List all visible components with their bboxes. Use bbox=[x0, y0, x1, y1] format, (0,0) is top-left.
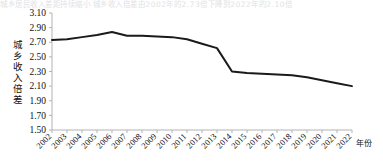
line-chart-plot: 3.102.902.702.502.302.101.901.701.50 200… bbox=[0, 0, 383, 168]
y-axis-title-char: 入 bbox=[13, 72, 23, 83]
y-tick-label: 2.90 bbox=[29, 23, 46, 33]
x-tick-label-2022: 2022 bbox=[334, 131, 353, 150]
y-tick-label: 2.50 bbox=[29, 52, 46, 62]
y-axis-title-char: 城 bbox=[13, 39, 23, 50]
axes-group bbox=[52, 13, 352, 130]
y-tick-label: 1.70 bbox=[29, 111, 46, 121]
y-axis-title: 城乡收入倍差 bbox=[13, 39, 23, 105]
x-tick-group: 2002200320042005200620072008200920102011… bbox=[34, 130, 353, 151]
y-tick-group: 3.102.902.702.502.302.101.901.701.50 bbox=[29, 8, 52, 135]
x-axis-title: 年份 bbox=[356, 138, 372, 148]
y-tick-label: 2.30 bbox=[29, 67, 46, 77]
y-tick-label: 3.10 bbox=[29, 8, 46, 18]
chart-figure: 城乡居民收入差距持续缩小 城乡收入倍差由2002年的2.73倍下降到2022年的… bbox=[0, 0, 383, 168]
y-axis-title-char: 乡 bbox=[13, 50, 23, 61]
y-tick-label: 2.70 bbox=[29, 37, 46, 47]
series-line-urban-rural-income-ratio bbox=[52, 32, 352, 86]
y-tick-label: 1.90 bbox=[29, 96, 46, 106]
y-axis-title-char: 倍 bbox=[13, 83, 23, 94]
y-axis-title-char: 差 bbox=[13, 94, 23, 105]
y-tick-label: 2.10 bbox=[29, 81, 46, 91]
y-axis-title-char: 收 bbox=[13, 61, 23, 72]
data-series-group bbox=[52, 32, 352, 86]
